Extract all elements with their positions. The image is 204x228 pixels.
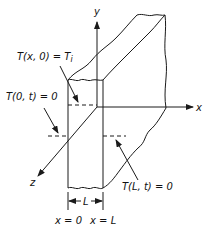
slab-bottom-edge xyxy=(68,187,103,188)
right-boundary-pointer xyxy=(116,140,138,180)
slab-back-right-edge xyxy=(165,15,167,108)
left-face-label: x = 0 xyxy=(54,215,82,226)
right-face-label: x = L xyxy=(89,215,116,226)
initial-condition-label: T(x, 0) = Ti xyxy=(17,51,73,64)
left-boundary-pointer xyxy=(44,108,58,133)
slab-top-front-edge xyxy=(68,79,103,80)
left-boundary-label: T(0, t) = 0 xyxy=(6,91,58,102)
slab-back-top-edge xyxy=(137,14,165,15)
slab-lower-right-edge xyxy=(103,108,166,188)
thickness-label: L xyxy=(83,196,89,207)
slab-body xyxy=(68,14,166,188)
z-axis-label: z xyxy=(29,177,36,188)
slab-top-right-edge xyxy=(103,15,165,80)
right-boundary-label: T(L, t) = 0 xyxy=(122,181,173,192)
slab-top-left-edge xyxy=(68,15,137,80)
initial-condition-pointer xyxy=(60,66,78,102)
y-axis-label: y xyxy=(93,6,101,17)
slab-diagram: y x z T(x, 0) = Ti T(0, t) = 0 T(L, t) =… xyxy=(0,0,204,228)
x-axis-label: x xyxy=(195,102,202,113)
